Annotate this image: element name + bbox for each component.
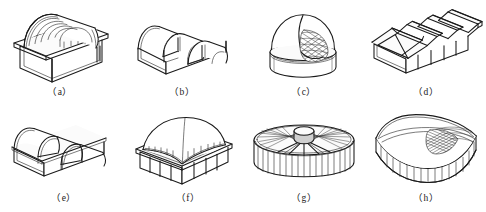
figure-a-drawing — [0, 0, 120, 88]
figure-g-drawing — [244, 106, 364, 194]
figure-g-label: （g） — [244, 192, 364, 204]
figure-item-f: （f） — [128, 106, 248, 212]
figure-item-e: （e） — [4, 106, 124, 212]
figure-item-b: （b） — [122, 0, 242, 106]
figure-f-label: （f） — [128, 192, 248, 204]
figure-h-label: （h） — [366, 192, 486, 204]
figure-item-a: （a） — [0, 0, 120, 106]
figure-item-c: （c） — [244, 0, 364, 106]
figure-e-drawing — [4, 106, 124, 194]
figure-f-drawing — [128, 106, 248, 194]
figure-item-g: （g） — [244, 106, 364, 212]
figure-c-drawing — [244, 0, 364, 88]
figure-b-drawing — [122, 0, 242, 88]
figure-e-label: （e） — [4, 192, 124, 204]
figure-c-label: （c） — [244, 86, 364, 98]
figure-d-label: （d） — [366, 86, 486, 98]
figure-item-h: （h） — [366, 106, 486, 212]
figure-a-label: （a） — [0, 86, 120, 98]
figure-item-d: （d） — [366, 0, 486, 106]
figure-h-drawing — [366, 106, 486, 194]
figure-b-label: （b） — [122, 86, 242, 98]
figure-d-drawing — [366, 0, 486, 88]
